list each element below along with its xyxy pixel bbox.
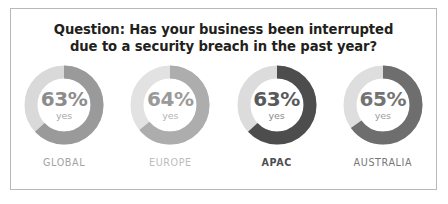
donut-svg — [339, 61, 427, 149]
donut-cell-global: 63%yesGLOBAL — [12, 61, 116, 168]
donut-cell-europe: 64%yesEUROPE — [118, 61, 222, 168]
survey-card: Question: Has your business been interru… — [10, 8, 437, 190]
region-label-global: GLOBAL — [43, 157, 85, 168]
donut-gauge: 63%yes — [233, 61, 321, 149]
donut-svg — [126, 61, 214, 149]
donut-svg — [20, 61, 108, 149]
title-line-2: due to a security breach in the past yea… — [11, 39, 436, 56]
page-title: Question: Has your business been interru… — [11, 22, 436, 55]
donut-gauge: 64%yes — [126, 61, 214, 149]
region-label-australia: AUSTRALIA — [354, 157, 413, 168]
region-label-europe: EUROPE — [149, 157, 192, 168]
infographic-screenshot: Question: Has your business been interru… — [0, 0, 448, 204]
title-line-1: Question: Has your business been interru… — [11, 22, 436, 39]
donut-chart-row: 63%yesGLOBAL64%yesEUROPE63%yesAPAC65%yes… — [11, 61, 436, 168]
donut-cell-apac: 63%yesAPAC — [225, 61, 329, 168]
donut-gauge: 65%yes — [339, 61, 427, 149]
donut-gauge: 63%yes — [20, 61, 108, 149]
donut-svg — [233, 61, 321, 149]
donut-cell-australia: 65%yesAUSTRALIA — [331, 61, 435, 168]
region-label-apac: APAC — [261, 157, 291, 168]
